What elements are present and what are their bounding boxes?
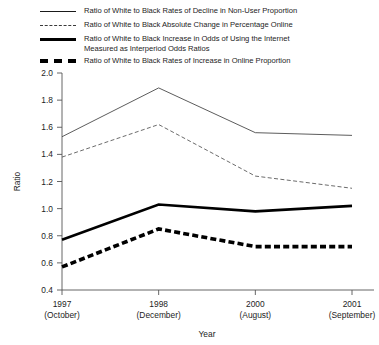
y-axis-title: Ratio xyxy=(12,171,22,191)
x-tick-sublabel: (December) xyxy=(137,310,181,320)
series-line-thick-solid xyxy=(62,205,352,240)
x-axis-ticks xyxy=(62,290,352,295)
x-tick-sublabel: (September) xyxy=(329,310,376,320)
y-tick-label: 0.8 xyxy=(41,231,53,241)
y-axis-ticks: 2.01.81.61.41.21.00.80.60.4 xyxy=(41,68,62,295)
chart-svg: 2.01.81.61.41.21.00.80.60.4 1997(October… xyxy=(0,0,379,345)
y-tick-label: 1.4 xyxy=(41,149,53,159)
y-tick-label: 1.2 xyxy=(41,177,53,187)
x-tick-sublabel: (October) xyxy=(44,310,80,320)
plot-area: 2.01.81.61.41.21.00.80.60.4 1997(October… xyxy=(0,0,379,345)
x-tick-label: 1998 xyxy=(149,299,168,309)
x-tick-sublabel: (August) xyxy=(240,310,272,320)
y-tick-label: 2.0 xyxy=(41,68,53,78)
y-tick-label: 0.4 xyxy=(41,285,53,295)
x-axis-title: Year xyxy=(199,329,216,339)
data-series-group xyxy=(62,88,352,267)
chart-figure: Ratio of White to Black Rates of Decline… xyxy=(0,0,379,345)
y-tick-label: 0.6 xyxy=(41,258,53,268)
x-tick-label: 1997 xyxy=(53,299,72,309)
x-tick-label: 2000 xyxy=(246,299,265,309)
x-axis-labels: 1997(October)1998(December)2000(August)2… xyxy=(44,299,375,320)
y-tick-label: 1.0 xyxy=(41,204,53,214)
y-tick-label: 1.6 xyxy=(41,122,53,132)
series-line-thin-solid xyxy=(62,88,352,137)
series-line-thick-dashed xyxy=(62,229,352,267)
y-tick-label: 1.8 xyxy=(41,95,53,105)
x-tick-label: 2001 xyxy=(343,299,362,309)
